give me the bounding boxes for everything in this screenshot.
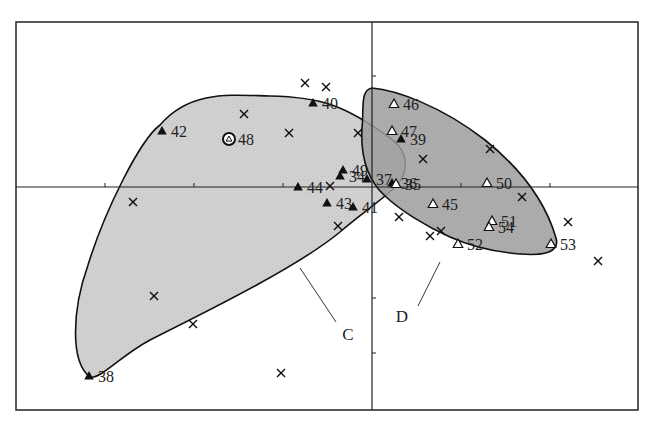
point-label: 46 (403, 96, 419, 113)
point-label: 38 (98, 368, 114, 385)
scatter-chart: CD38404244344937363943414647355045515452… (0, 0, 649, 421)
point-label: 52 (467, 236, 483, 253)
point-label: 48 (238, 131, 254, 148)
point-label: 42 (171, 123, 187, 140)
point-label: 37 (376, 171, 392, 188)
point-label: 45 (442, 196, 458, 213)
point-label: 49 (352, 162, 368, 179)
point-label: 41 (362, 199, 378, 216)
point-label: 35 (405, 176, 421, 193)
point-label: 43 (336, 195, 352, 212)
point-label: 47 (401, 123, 417, 140)
point-label: 54 (498, 219, 514, 236)
point-label: 53 (560, 236, 576, 253)
point-label: 50 (496, 175, 512, 192)
group-label-d: D (396, 307, 408, 326)
point-label: 40 (322, 95, 338, 112)
group-label-c: C (342, 325, 353, 344)
point-label: 44 (307, 179, 323, 196)
